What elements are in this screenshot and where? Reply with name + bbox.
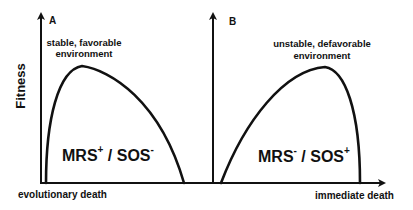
y-axis-label: Fitness [13, 63, 28, 109]
panel-b-endpoint-label: immediate death [315, 190, 394, 201]
panel-b-genotype: MRS- / SOS+ [258, 145, 350, 165]
panel-b-environment-line2: environment [293, 50, 351, 61]
panel-a: A stable, favorable environment MRS+ / S… [18, 14, 184, 200]
panel-a-label: A [49, 15, 56, 26]
panel-a-fitness-curve [46, 66, 184, 183]
panel-a-endpoint-label: evolutionary death [18, 189, 107, 200]
panel-b-fitness-curve [221, 67, 360, 183]
panel-a-environment-line1: stable, favorable [47, 37, 122, 48]
panel-a-genotype: MRS+ / SOS- [62, 144, 154, 164]
panel-b-label: B [229, 16, 236, 27]
fitness-diagram: Fitness A stable, favorable environment … [0, 0, 413, 210]
panel-a-environment-line2: environment [55, 48, 113, 59]
panel-b: B unstable, defavorable environment MRS-… [213, 14, 394, 201]
panel-b-environment-line1: unstable, defavorable [273, 38, 371, 49]
